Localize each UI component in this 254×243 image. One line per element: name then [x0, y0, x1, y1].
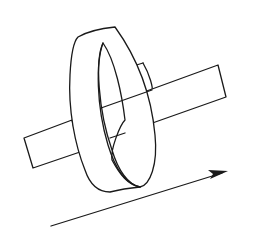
arrow-head-icon [208, 170, 228, 179]
bar-left-segment [24, 120, 80, 168]
ring-and-bar-diagram [0, 0, 254, 243]
